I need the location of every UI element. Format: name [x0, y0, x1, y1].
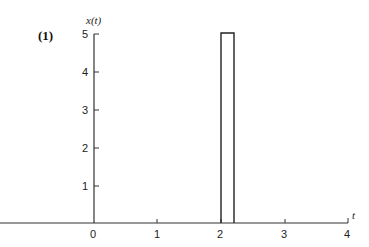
panel-label: (1): [38, 28, 53, 43]
x-tick-label: 3: [281, 228, 287, 240]
y-ticks: 5 4 3 2 1: [82, 28, 99, 192]
x-tick-label: 0: [90, 228, 96, 240]
y-tick-label: 4: [82, 66, 88, 78]
pulse-signal: [221, 33, 234, 223]
y-tick-label: 1: [82, 180, 88, 192]
y-tick-label: 5: [82, 28, 88, 40]
y-axis-label: x(t): [85, 14, 102, 27]
x-tick-label: 1: [154, 228, 160, 240]
y-tick-label: 2: [82, 142, 88, 154]
x-axis-label: t: [352, 209, 356, 221]
x-ticks: 0 1 2 3 4: [90, 219, 350, 240]
y-tick-label: 3: [82, 104, 88, 116]
chart: (1) x(t) t 5 4 3 2 1 0 1 2 3 4: [0, 0, 369, 247]
x-tick-label: 4: [344, 228, 350, 240]
x-tick-label: 2: [217, 228, 223, 240]
